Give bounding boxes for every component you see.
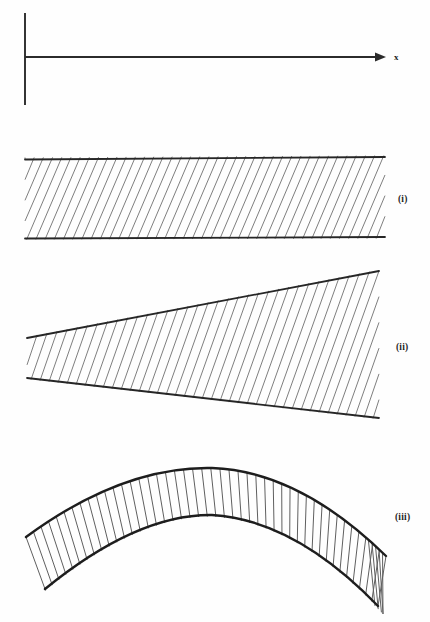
hatch-stroke bbox=[330, 156, 365, 239]
hatch-stroke bbox=[80, 503, 94, 555]
panel-iii-hatching bbox=[26, 469, 386, 614]
panel-ii-bottom-edge bbox=[27, 378, 379, 418]
hatch-stroke bbox=[202, 469, 208, 517]
panel-iii-outer-curve bbox=[26, 468, 386, 556]
hatch-stroke bbox=[238, 156, 273, 239]
hatch-stroke bbox=[25, 157, 34, 179]
hatch-stroke bbox=[41, 527, 59, 580]
hatch-stroke bbox=[346, 322, 379, 415]
hatch-stroke bbox=[34, 532, 53, 585]
hatch-stroke bbox=[284, 156, 319, 239]
panel-ii-hatching bbox=[27, 271, 379, 419]
hatch-stroke bbox=[165, 472, 173, 520]
hatch-stroke bbox=[72, 508, 87, 560]
hatch-stroke bbox=[337, 297, 379, 415]
hatch-stroke bbox=[49, 329, 67, 382]
hatch-stroke bbox=[27, 335, 37, 365]
hatch-stroke bbox=[64, 512, 80, 564]
hatch-stroke bbox=[229, 156, 264, 239]
hatch-stroke bbox=[326, 510, 330, 562]
hatch-stroke bbox=[192, 156, 227, 239]
hatch-stroke bbox=[201, 156, 236, 239]
hatch-stroke bbox=[220, 156, 255, 239]
hatch-stroke bbox=[26, 538, 45, 591]
hatch-stroke bbox=[27, 157, 62, 239]
hatch-stroke bbox=[166, 304, 198, 395]
hatch-stroke bbox=[265, 283, 309, 406]
hatch-stroke bbox=[346, 526, 351, 578]
hatch-stroke bbox=[274, 281, 319, 407]
hatch-stroke bbox=[40, 331, 57, 381]
hatch-stroke bbox=[49, 522, 66, 575]
hatch-stroke bbox=[220, 469, 225, 518]
hatch-stroke bbox=[310, 274, 359, 412]
hatch-stroke bbox=[25, 157, 43, 200]
hatch-stroke bbox=[321, 156, 356, 239]
panel-ii-label: (ii) bbox=[396, 342, 408, 353]
panel-i-bottom-edge bbox=[25, 237, 385, 239]
panel-i-group: (i) bbox=[25, 156, 408, 240]
hatch-stroke bbox=[328, 271, 379, 414]
hatch-stroke bbox=[157, 306, 188, 394]
hatch-stroke bbox=[76, 323, 97, 384]
hatch-stroke bbox=[157, 474, 165, 523]
hatch-stroke bbox=[220, 293, 259, 401]
hatch-stroke bbox=[359, 538, 365, 589]
hatch-stroke bbox=[211, 469, 216, 517]
panel-i-top-edge bbox=[25, 157, 385, 160]
hatch-stroke bbox=[155, 157, 190, 240]
hatch-stroke bbox=[73, 157, 108, 239]
hatch-stroke bbox=[139, 310, 168, 392]
hatch-stroke bbox=[56, 517, 73, 569]
hatch-stroke bbox=[333, 515, 337, 567]
hatch-stroke bbox=[339, 156, 374, 239]
hatch-stroke bbox=[367, 196, 385, 239]
hatch-stroke bbox=[58, 327, 77, 383]
hatch-stroke bbox=[63, 157, 98, 239]
panel-i-hatching bbox=[25, 156, 385, 240]
hatch-stroke bbox=[319, 505, 322, 557]
hatch-stroke bbox=[139, 479, 148, 528]
hatch-stroke bbox=[283, 279, 329, 408]
hatch-stroke bbox=[305, 496, 307, 547]
hatch-stroke bbox=[256, 475, 258, 525]
hatch-stroke bbox=[265, 478, 267, 529]
hatch-stroke bbox=[148, 308, 178, 393]
hatch-stroke bbox=[257, 156, 292, 239]
hatch-stroke bbox=[119, 157, 154, 239]
hatch-stroke bbox=[128, 157, 163, 239]
hatch-stroke bbox=[91, 157, 126, 239]
hatch-stroke bbox=[247, 287, 289, 404]
hatch-stroke bbox=[364, 374, 379, 418]
hatch-stroke bbox=[113, 488, 124, 539]
hatch-stroke bbox=[184, 470, 191, 518]
hatch-stroke bbox=[373, 400, 379, 419]
hatch-stroke bbox=[193, 298, 228, 398]
hatch-stroke bbox=[247, 156, 282, 239]
hatch-stroke bbox=[353, 532, 359, 583]
hatch-stroke bbox=[297, 492, 298, 543]
figure-container: x (i) (ii) (iii) bbox=[0, 0, 430, 622]
hatch-stroke bbox=[54, 157, 89, 239]
hatch-stroke bbox=[293, 156, 328, 239]
hatch-stroke bbox=[67, 325, 87, 383]
panel-ii-top-edge bbox=[27, 271, 379, 338]
hatch-stroke bbox=[256, 285, 299, 405]
hatch-stroke bbox=[100, 157, 135, 239]
hatch-stroke bbox=[312, 501, 314, 553]
hatch-stroke bbox=[238, 471, 241, 521]
hatch-stroke bbox=[130, 482, 140, 532]
hatch-stroke bbox=[183, 156, 218, 239]
hatch-stroke bbox=[148, 476, 157, 525]
hatch-stroke bbox=[146, 157, 181, 240]
hatch-stroke bbox=[275, 156, 310, 239]
hatch-stroke bbox=[202, 297, 238, 400]
hatch-stroke bbox=[211, 156, 246, 239]
hatch-stroke bbox=[247, 473, 250, 523]
hatch-stroke bbox=[85, 321, 108, 385]
panel-iii-group: (iii) bbox=[26, 468, 410, 614]
hatch-stroke bbox=[45, 157, 80, 239]
hatch-stroke bbox=[303, 156, 338, 239]
hatch-stroke bbox=[36, 157, 71, 239]
hatch-stroke bbox=[109, 157, 144, 239]
